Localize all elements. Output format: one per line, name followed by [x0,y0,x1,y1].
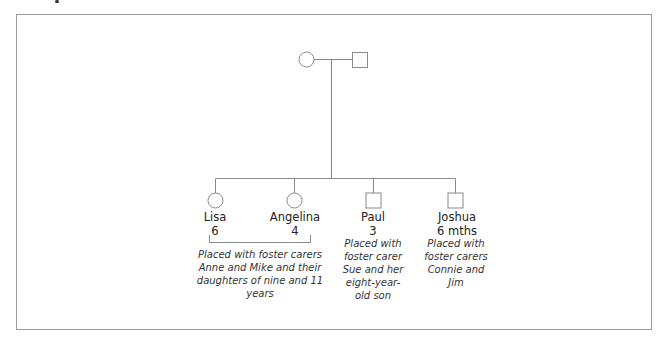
mother-symbol [299,52,314,67]
child-name: Joshua [425,210,489,224]
placement-note-paul: Placed with foster carer Sue and her eig… [340,237,406,302]
note-line: Connie and [421,263,491,276]
child-name: Angelina [265,210,325,224]
note-line: Jim [421,276,491,289]
child-label-joshua: Joshua 6 mths [425,210,489,238]
child-age: 3 [348,224,398,238]
note-line: foster carer [340,250,406,263]
note-line: Sue and her [340,263,406,276]
angelina-symbol [287,193,302,208]
child-age: 6 mths [425,224,489,238]
father-symbol [353,53,368,68]
note-line: Placed with foster carers [195,248,325,261]
note-line: Anne and Mike and their [195,261,325,274]
child-age: 6 [190,224,240,238]
paul-symbol [366,193,381,208]
note-line: daughters of nine and 11 [195,274,325,287]
child-name: Lisa [190,210,240,224]
child-label-paul: Paul 3 [348,210,398,238]
note-line: foster carers [421,250,491,263]
lisa-symbol [208,193,223,208]
child-name: Paul [348,210,398,224]
child-age: 4 [265,224,325,238]
child-label-lisa: Lisa 6 [190,210,240,238]
note-line: Placed with [421,237,491,250]
placement-note-joshua: Placed with foster carers Connie and Jim [421,237,491,289]
note-line: eight-year- [340,276,406,289]
note-line: old son [340,289,406,302]
note-line: Placed with [340,237,406,250]
genogram-lines [0,0,666,346]
note-line: years [195,287,325,300]
child-label-angelina: Angelina 4 [265,210,325,238]
placement-note-lisa-angelina: Placed with foster carers Anne and Mike … [195,248,325,300]
joshua-symbol [448,193,463,208]
